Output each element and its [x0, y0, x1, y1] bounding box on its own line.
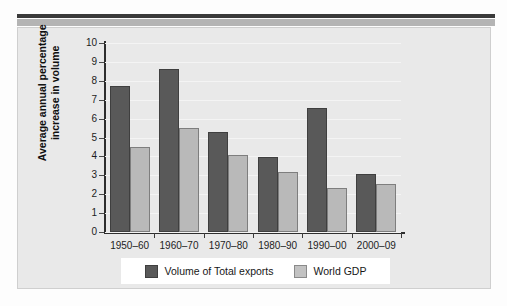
bar	[278, 172, 298, 232]
y-axis-tick-label: 4	[75, 151, 97, 161]
legend-item[interactable]: Volume of Total exports	[145, 265, 274, 278]
bar	[327, 188, 347, 232]
y-axis-tick-label: 8	[75, 76, 97, 86]
chart-panel: Average annual percentage increase in vo…	[17, 27, 491, 289]
y-axis-tick-labels: 109876543210	[71, 28, 97, 290]
bar	[307, 108, 327, 232]
bar-group	[159, 43, 199, 232]
legend-swatch-icon	[145, 265, 158, 278]
bar	[356, 174, 376, 232]
y-axis-tick-label: 0	[75, 227, 97, 237]
y-axis-tick-label: 6	[75, 114, 97, 124]
bar	[228, 155, 248, 232]
x-axis-tick	[204, 233, 205, 238]
x-axis-tick	[154, 233, 155, 238]
legend-item[interactable]: World GDP	[294, 265, 367, 278]
bar	[179, 128, 199, 232]
y-axis-tick-label: 5	[75, 133, 97, 143]
figure-container: Average annual percentage increase in vo…	[0, 0, 507, 306]
x-axis-tick	[352, 233, 353, 238]
y-axis-title-line-1: Average annual percentage	[36, 18, 49, 168]
plot-area	[105, 43, 401, 232]
top-rule-divider	[17, 14, 495, 18]
bar	[258, 157, 278, 232]
y-axis-tick-label: 3	[75, 170, 97, 180]
bar-group	[208, 43, 248, 232]
y-axis-title: Average annual percentage increase in vo…	[36, 18, 62, 168]
bar-group	[307, 43, 347, 232]
y-axis-tick-label: 10	[75, 38, 97, 48]
x-axis-tick	[401, 233, 402, 238]
bar-group	[110, 43, 150, 232]
bar	[376, 184, 396, 232]
bar	[159, 69, 179, 232]
bar	[130, 147, 150, 232]
y-axis-title-line-2: increase in volume	[49, 18, 62, 168]
legend-swatch-icon	[294, 265, 307, 278]
x-axis-tick-label: 2000–09	[341, 240, 411, 251]
bar-group	[356, 43, 396, 232]
y-axis-tick-label: 2	[75, 189, 97, 199]
chart-legend: Volume of Total exportsWorld GDP	[121, 258, 390, 284]
legend-label: World GDP	[314, 265, 367, 277]
legend-label: Volume of Total exports	[165, 265, 274, 277]
bar-group	[258, 43, 298, 232]
x-axis-tick	[253, 233, 254, 238]
x-axis-tick	[302, 233, 303, 238]
y-axis-tick-label: 1	[75, 208, 97, 218]
top-gray-band	[17, 19, 495, 26]
y-axis-tick-label: 7	[75, 95, 97, 105]
bar	[110, 86, 130, 232]
bar	[208, 132, 228, 232]
y-axis-tick-label: 9	[75, 57, 97, 67]
